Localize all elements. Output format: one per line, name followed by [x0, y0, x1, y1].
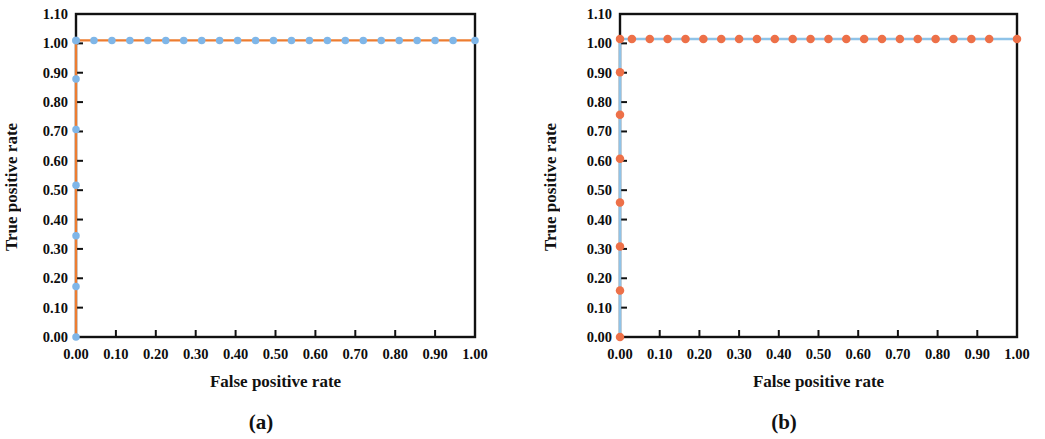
- y-tick-label: 0.10: [20, 299, 68, 316]
- roc-plot-a: [0, 0, 522, 400]
- x-tick-label: 0.80: [925, 346, 950, 363]
- y-tick-label: 0.80: [20, 94, 68, 111]
- x-tick-label: 1.00: [1004, 346, 1029, 363]
- y-tick-label: 0.40: [20, 211, 68, 228]
- y-axis-title-b: True positive rate: [541, 72, 561, 302]
- x-tick-label: 0.00: [607, 346, 632, 363]
- x-tick-label: 0.60: [846, 346, 871, 363]
- y-tick-label: 1.10: [20, 6, 68, 23]
- y-tick-label: 0.30: [20, 240, 68, 257]
- panel-caption-b: (b): [523, 410, 1045, 435]
- panel-caption-a: (a): [0, 410, 522, 435]
- x-tick-label: 0.40: [223, 346, 248, 363]
- x-tick-label: 0.30: [726, 346, 751, 363]
- y-tick-label: 1.00: [564, 35, 612, 52]
- x-tick-label: 0.90: [965, 346, 990, 363]
- x-tick-label: 0.70: [885, 346, 910, 363]
- y-tick-label: 0.90: [20, 64, 68, 81]
- x-tick-label: 0.20: [687, 346, 712, 363]
- x-tick-label: 0.00: [63, 346, 88, 363]
- x-tick-label: 0.60: [303, 346, 328, 363]
- y-axis-title-a: True positive rate: [2, 72, 22, 302]
- y-tick-label: 0.50: [20, 182, 68, 199]
- y-tick-label: 0.50: [564, 182, 612, 199]
- x-tick-label: 1.00: [462, 346, 487, 363]
- x-axis-title-a: False positive rate: [76, 372, 475, 392]
- y-tick-label: 0.30: [564, 240, 612, 257]
- y-tick-label: 0.60: [564, 152, 612, 169]
- y-tick-label: 0.80: [564, 94, 612, 111]
- y-tick-label: 0.70: [20, 123, 68, 140]
- x-tick-label: 0.10: [647, 346, 672, 363]
- y-tick-label: 0.00: [20, 329, 68, 346]
- y-tick-label: 1.10: [564, 6, 612, 23]
- x-tick-label: 0.80: [383, 346, 408, 363]
- x-tick-label: 0.90: [422, 346, 447, 363]
- x-axis-title-b: False positive rate: [620, 372, 1017, 392]
- y-tick-label: 0.20: [20, 270, 68, 287]
- x-tick-label: 0.70: [343, 346, 368, 363]
- y-tick-label: 0.90: [564, 64, 612, 81]
- x-tick-label: 0.30: [183, 346, 208, 363]
- x-tick-label: 0.40: [766, 346, 791, 363]
- y-tick-label: 0.10: [564, 299, 612, 316]
- x-tick-label: 0.20: [143, 346, 168, 363]
- x-tick-label: 0.50: [806, 346, 831, 363]
- y-tick-label: 0.20: [564, 270, 612, 287]
- panel-a: True positive rate False positive rate (…: [0, 0, 522, 439]
- y-tick-label: 1.00: [20, 35, 68, 52]
- x-tick-label: 0.10: [103, 346, 128, 363]
- panel-b: True positive rate False positive rate (…: [523, 0, 1045, 439]
- x-tick-label: 0.50: [263, 346, 288, 363]
- y-tick-label: 0.40: [564, 211, 612, 228]
- y-tick-label: 0.60: [20, 152, 68, 169]
- y-tick-label: 0.70: [564, 123, 612, 140]
- y-tick-label: 0.00: [564, 329, 612, 346]
- roc-figure: True positive rate False positive rate (…: [0, 0, 1045, 439]
